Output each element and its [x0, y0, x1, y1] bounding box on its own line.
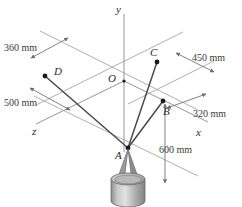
axis-lines	[36, 14, 208, 152]
grid-line-z-lower	[128, 61, 214, 104]
point-D-dot	[43, 74, 48, 79]
cable-AC	[128, 62, 157, 148]
point-label-O: O	[108, 73, 116, 84]
z-axis-line	[36, 81, 124, 124]
cylinder-inner-rim	[115, 175, 141, 184]
point-label-C: C	[150, 47, 157, 58]
engineering-diagram-figure: y x z O A B C D 360 mm 500 mm 450 mm 320…	[0, 0, 242, 207]
dimension-label-500: 500 mm	[4, 98, 37, 108]
point-label-A: A	[115, 150, 122, 161]
point-label-D: D	[54, 66, 62, 77]
point-O-dot	[122, 79, 125, 82]
dimension-lines	[30, 38, 214, 183]
point-B-dot	[161, 99, 166, 104]
axis-label-y: y	[116, 4, 121, 15]
axis-label-z: z	[32, 126, 36, 137]
grid-line-x-lower	[34, 96, 198, 176]
dimension-label-360: 360 mm	[4, 43, 37, 53]
dimension-label-600: 600 mm	[159, 145, 192, 155]
dimension-label-450: 450 mm	[192, 53, 225, 63]
axis-label-x: x	[196, 127, 201, 138]
point-C-dot	[155, 60, 160, 65]
cable-AB	[128, 101, 163, 148]
dimension-label-320: 320 mm	[193, 109, 226, 119]
cable-group	[45, 62, 163, 148]
dim-320-arrow	[167, 94, 206, 108]
cable-AD	[45, 76, 128, 148]
point-label-B: B	[163, 106, 170, 117]
grid-line-x-upper	[40, 31, 198, 110]
